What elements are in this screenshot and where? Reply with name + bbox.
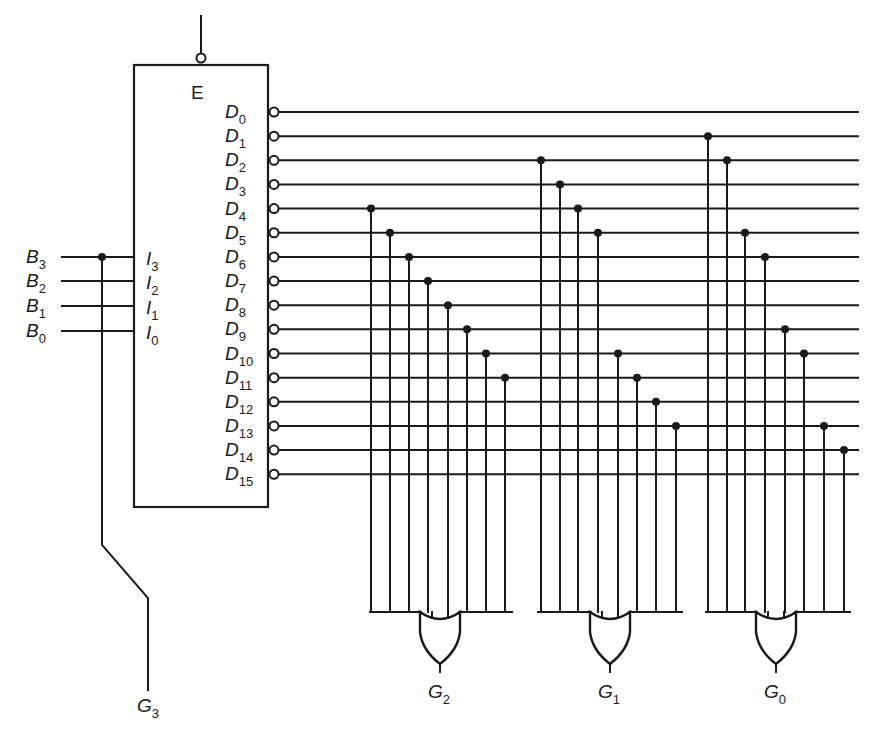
junction-dot-icon (652, 398, 660, 406)
junction-dot-icon (672, 422, 680, 430)
output-bubble-icon (270, 252, 279, 261)
output-bubble-icon (270, 108, 279, 117)
junction-dot-icon (761, 253, 769, 261)
junction-dot-icon (633, 374, 641, 382)
junction-dot-icon (463, 325, 471, 333)
junction-dot-icon (424, 277, 432, 285)
output-bubble-icon (270, 277, 279, 286)
output-bubble-icon (270, 446, 279, 455)
output-label-G0: G0 (764, 681, 786, 707)
input-label-B3: B3 (26, 246, 46, 272)
junction-dot-icon (741, 229, 749, 237)
junction-dot-icon (556, 180, 564, 188)
output-bubble-icon (270, 397, 279, 406)
junction-dot-icon (723, 156, 731, 164)
output-label-G1: G1 (598, 681, 620, 707)
decoder-gray-code-circuit: EB3I3B2I2B1I1B0I0G3D0D1D2D3D4D5D6D7D8D9D… (0, 0, 894, 735)
output-bubble-icon (270, 421, 279, 430)
decoder-output-D1: D1 (225, 125, 246, 151)
decoder-output-D14: D14 (225, 439, 253, 465)
decoder-output-D11: D11 (225, 367, 252, 393)
decoder-output-D4: D4 (225, 198, 246, 224)
decoder-output-D7: D7 (225, 270, 246, 296)
output-bubble-icon (270, 204, 279, 213)
decoder-output-D13: D13 (225, 415, 253, 441)
decoder-output-D10: D10 (225, 343, 253, 369)
g3-wire (102, 257, 148, 690)
output-bubble-icon (270, 156, 279, 165)
junction-dot-icon (594, 229, 602, 237)
junction-dot-icon (482, 350, 490, 358)
decoder-output-D9: D9 (225, 318, 246, 344)
junction-dot-icon (367, 205, 375, 213)
output-label-G3: G3 (137, 695, 159, 721)
junction-dot-icon (820, 422, 828, 430)
decoder-output-D2: D2 (225, 149, 246, 175)
junction-dot-icon (444, 301, 452, 309)
input-label-B0: B0 (26, 320, 46, 346)
decoder-input-I0: I0 (146, 322, 159, 348)
decoder-input-I1: I1 (146, 297, 159, 323)
output-bubble-icon (270, 373, 279, 382)
enable-bubble-icon (197, 54, 206, 63)
or-gate-group-G2 (367, 205, 512, 672)
output-bubble-icon (270, 301, 279, 310)
decoder-output-D8: D8 (225, 294, 246, 320)
junction-dot-icon (614, 350, 622, 358)
junction-dot-icon (386, 229, 394, 237)
output-bubble-icon (270, 470, 279, 479)
junction-dot-icon (574, 205, 582, 213)
output-label-G2: G2 (428, 681, 450, 707)
junction-dot-icon (501, 374, 509, 382)
input-label-B1: B1 (26, 295, 46, 321)
decoder-output-D12: D12 (225, 391, 253, 417)
output-bubble-icon (270, 349, 279, 358)
output-bubble-icon (270, 325, 279, 334)
junction-dot-icon (537, 156, 545, 164)
junction-dot-icon (704, 132, 712, 140)
junction-dot-icon (781, 325, 789, 333)
output-bubble-icon (270, 228, 279, 237)
decoder-output-D0: D0 (225, 101, 246, 127)
junction-dot-icon (800, 350, 808, 358)
input-label-B2: B2 (26, 270, 46, 296)
output-bubble-icon (270, 132, 279, 141)
decoder-output-D3: D3 (225, 173, 246, 199)
enable-label: E (191, 82, 204, 103)
or-gate-icon (590, 612, 630, 664)
decoder-input-I3: I3 (146, 248, 159, 274)
output-bubble-icon (270, 180, 279, 189)
or-gate-icon (420, 612, 460, 664)
decoder-output-D5: D5 (225, 222, 246, 248)
or-gate-icon (756, 612, 796, 664)
junction-dot-icon (405, 253, 413, 261)
decoder-output-D15: D15 (225, 463, 253, 489)
junction-dot-icon (840, 446, 848, 454)
decoder-output-D6: D6 (225, 246, 246, 272)
decoder-input-I2: I2 (146, 272, 159, 298)
